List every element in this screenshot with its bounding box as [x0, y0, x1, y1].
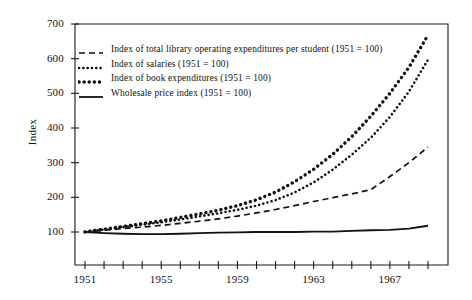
dashed-line-marker: [78, 44, 104, 54]
legend-item-label: Index of book expenditures (1951 = 100): [111, 73, 271, 83]
fine-dotted-line-marker: [78, 59, 104, 69]
legend-item: Index of total library operating expendi…: [78, 42, 408, 57]
series-line-2: [85, 147, 428, 232]
legend-item: Index of salaries (1951 = 100): [78, 57, 408, 72]
legend-item-label: Wholesale price index (1951 = 100): [111, 88, 251, 98]
legend-item: Wholesale price index (1951 = 100): [78, 86, 408, 101]
legend-item-label: Index of total library operating expendi…: [111, 44, 382, 54]
chart-figure: Index 100200300400500600700 195119551959…: [0, 0, 472, 300]
legend-item-label: Index of salaries (1951 = 100): [111, 59, 229, 69]
coarse-dotted-line-marker: [78, 73, 104, 83]
solid-line-marker: [78, 88, 104, 98]
legend-item: Index of book expenditures (1951 = 100): [78, 71, 408, 86]
chart-legend: Index of total library operating expendi…: [78, 42, 408, 100]
